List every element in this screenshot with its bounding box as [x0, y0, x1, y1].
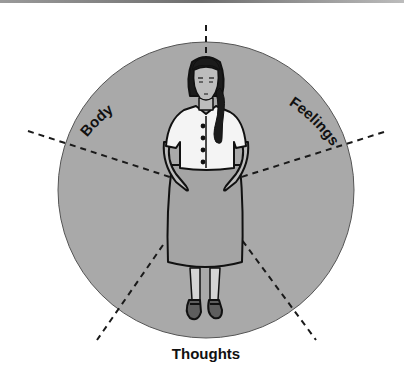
- label-thoughts: Thoughts: [172, 345, 240, 362]
- wheel-diagram: Body Feelings Consciousness Awareness Th…: [0, 0, 404, 375]
